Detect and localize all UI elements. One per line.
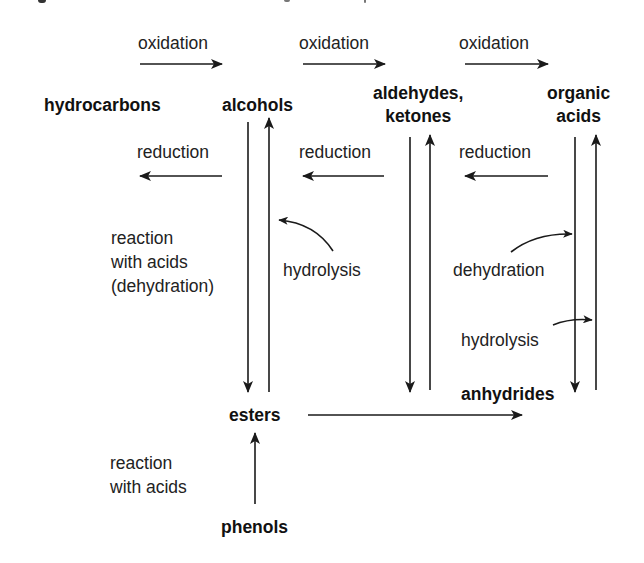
label-dehydration: dehydration <box>453 260 544 281</box>
hydrolysis-curved-arrow <box>279 220 333 251</box>
label-oxidation-3: oxidation <box>459 33 529 54</box>
label-reduction-3: reduction <box>459 142 531 163</box>
label-reaction-with-acids-dehydration: reaction with acids (dehydration) <box>111 226 214 298</box>
label-reduction-2: reduction <box>299 142 371 163</box>
node-organic-acids: organic acids <box>547 82 610 128</box>
label-reaction-with-acids: reaction with acids <box>110 451 187 499</box>
label-oxidation-1: oxidation <box>138 33 208 54</box>
label-hydrolysis-esters: hydrolysis <box>283 260 361 281</box>
reaction-pathway-diagram: oxidation oxidation oxidation reduction … <box>0 0 644 563</box>
node-anhydrides: anhydrides <box>461 383 554 405</box>
dehydration-curved-arrow <box>511 234 572 252</box>
node-phenols: phenols <box>221 516 288 538</box>
node-esters: esters <box>229 404 281 426</box>
node-alcohols: alcohols <box>222 94 293 116</box>
label-oxidation-2: oxidation <box>299 33 369 54</box>
label-hydrolysis-anhydrides: hydrolysis <box>461 330 539 351</box>
hydrolysis-anhydride-curved-arrow <box>553 320 592 325</box>
node-hydrocarbons: hydrocarbons <box>44 94 161 116</box>
label-reduction-1: reduction <box>137 142 209 163</box>
node-aldehydes-ketones: aldehydes, ketones <box>373 82 463 128</box>
